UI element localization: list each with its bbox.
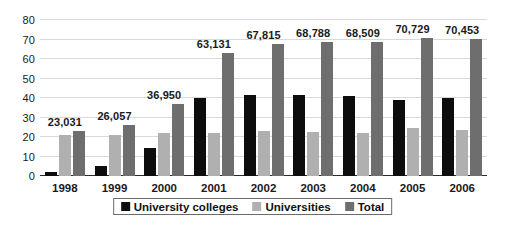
- bar-value-label: 26,057: [97, 110, 131, 122]
- bar-total[interactable]: [470, 39, 482, 176]
- bar-value-label: 70,729: [395, 23, 429, 35]
- bar-university-colleges[interactable]: [442, 98, 454, 176]
- y-axis-tick-label: 10: [23, 151, 35, 163]
- legend-swatch-icon: [345, 202, 354, 211]
- y-axis-tick-label: 80: [23, 14, 35, 26]
- bar-stack: [239, 20, 289, 176]
- legend-item-label: Total: [358, 201, 385, 213]
- bar-stack: [338, 20, 388, 176]
- y-axis-tick-label: 60: [23, 53, 35, 65]
- bar-universities[interactable]: [59, 135, 71, 176]
- bar-universities[interactable]: [307, 132, 319, 176]
- bar-university-colleges[interactable]: [293, 95, 305, 176]
- bar-universities[interactable]: [109, 135, 121, 176]
- y-axis-tick-label: 30: [23, 112, 35, 124]
- bar-stack: [288, 20, 338, 176]
- bar-university-colleges[interactable]: [194, 98, 206, 176]
- y-axis-tick-label: 0: [29, 170, 35, 182]
- bar-chart: 01020304050607080 23,031199826,057199936…: [0, 0, 505, 232]
- bar-stack: [90, 20, 140, 176]
- bar-total[interactable]: [222, 53, 234, 176]
- bar-universities[interactable]: [258, 131, 270, 176]
- x-axis-tick-label: 2002: [251, 182, 277, 194]
- bar-university-colleges[interactable]: [45, 172, 57, 176]
- x-axis-tick-label: 2003: [300, 182, 326, 194]
- legend-item-label: University colleges: [134, 201, 239, 213]
- bar-value-label: 36,950: [147, 89, 181, 101]
- bar-university-colleges[interactable]: [393, 100, 405, 176]
- bar-universities[interactable]: [407, 128, 419, 176]
- bar-total[interactable]: [73, 131, 85, 176]
- bar-university-colleges[interactable]: [343, 96, 355, 176]
- bar-universities[interactable]: [208, 133, 220, 176]
- bar-stack: [388, 20, 438, 176]
- bar-group: 23,0311998: [40, 20, 90, 176]
- bar-total[interactable]: [172, 104, 184, 176]
- legend-item-universities[interactable]: Universities: [253, 201, 331, 213]
- bar-groups: 23,031199826,057199936,950200063,1312001…: [40, 20, 487, 176]
- x-axis-tick-label: 2005: [400, 182, 426, 194]
- bar-total[interactable]: [421, 38, 433, 176]
- bar-value-label: 70,453: [445, 24, 479, 36]
- x-axis-tick-label: 1999: [102, 182, 128, 194]
- bar-value-label: 68,509: [346, 27, 380, 39]
- x-axis-tick-label: 2001: [201, 182, 227, 194]
- bar-value-label: 67,815: [246, 29, 280, 41]
- x-axis-tick-label: 2006: [449, 182, 475, 194]
- bar-university-colleges[interactable]: [144, 148, 156, 176]
- y-axis-tick-label: 20: [23, 131, 35, 143]
- bar-group: 26,0571999: [90, 20, 140, 176]
- bar-group: 68,5092004: [338, 20, 388, 176]
- bar-universities[interactable]: [158, 133, 170, 176]
- bar-total[interactable]: [123, 125, 135, 176]
- bar-university-colleges[interactable]: [244, 95, 256, 176]
- bar-group: 68,7882003: [288, 20, 338, 176]
- plot-area: 01020304050607080 23,031199826,057199936…: [40, 20, 487, 176]
- legend-item-label: Universities: [266, 201, 331, 213]
- legend-swatch-icon: [253, 202, 262, 211]
- bar-group: 36,9502000: [139, 20, 189, 176]
- bar-total[interactable]: [321, 42, 333, 176]
- bar-group: 67,8152002: [239, 20, 289, 176]
- bar-universities[interactable]: [456, 130, 468, 176]
- x-axis-tick-label: 2004: [350, 182, 376, 194]
- y-axis-tick-label: 50: [23, 73, 35, 85]
- bar-university-colleges[interactable]: [95, 166, 107, 176]
- chart-legend: University collegesUniversitiesTotal: [113, 198, 393, 215]
- bar-value-label: 63,131: [197, 38, 231, 50]
- bar-total[interactable]: [272, 44, 284, 176]
- bar-total[interactable]: [371, 42, 383, 176]
- bar-group: 63,1312001: [189, 20, 239, 176]
- bar-stack: [437, 20, 487, 176]
- x-axis-tick-label: 2000: [151, 182, 177, 194]
- legend-item-total[interactable]: Total: [345, 201, 385, 213]
- y-axis-tick-label: 70: [23, 34, 35, 46]
- bar-value-label: 68,788: [296, 27, 330, 39]
- legend-item-university-colleges[interactable]: University colleges: [121, 201, 239, 213]
- bar-group: 70,4532006: [437, 20, 487, 176]
- bar-universities[interactable]: [357, 133, 369, 176]
- bar-stack: [40, 20, 90, 176]
- bar-group: 70,7292005: [388, 20, 438, 176]
- x-axis-tick-label: 1998: [52, 182, 78, 194]
- legend-swatch-icon: [121, 202, 130, 211]
- y-axis-tick-label: 40: [23, 92, 35, 104]
- bar-value-label: 23,031: [48, 116, 82, 128]
